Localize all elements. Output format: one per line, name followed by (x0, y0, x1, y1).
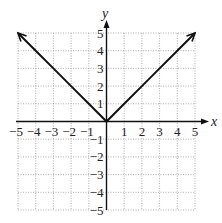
y-tick-label: −5 (90, 203, 104, 218)
y-tick-label: 4 (97, 43, 104, 58)
x-tick-label: 5 (192, 124, 199, 139)
x-tick-label: 1 (121, 124, 128, 139)
y-tick-label: 2 (97, 79, 104, 94)
x-tick-label: −2 (62, 124, 76, 139)
y-tick-label: 3 (97, 61, 104, 76)
x-tick-label: 2 (139, 124, 146, 139)
x-tick-label: 3 (156, 124, 163, 139)
y-tick-label: 5 (97, 26, 104, 41)
graph: −5−4−3−2−11234554321−1−2−3−4−5 x y (0, 0, 222, 223)
x-axis-label: x (210, 114, 218, 129)
y-tick-label: −2 (90, 149, 104, 164)
y-tick-label: −4 (90, 185, 104, 200)
y-tick-label: −1 (90, 132, 104, 147)
x-tick-label: −5 (9, 124, 23, 139)
y-tick-label: −3 (90, 167, 104, 182)
y-axis-label: y (100, 6, 109, 21)
x-tick-label: 4 (174, 124, 181, 139)
x-tick-label: −4 (27, 124, 41, 139)
y-axis-arrow-icon (104, 20, 110, 28)
y-tick-label: 1 (97, 96, 104, 111)
x-tick-label: −3 (44, 124, 58, 139)
x-axis-arrow-icon (201, 119, 209, 125)
